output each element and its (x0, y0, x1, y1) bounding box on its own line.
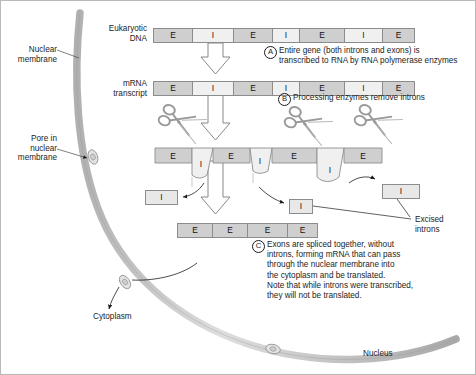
dna-segment-exon-0: E (153, 28, 193, 43)
step-letter-a: A (264, 46, 277, 59)
step-text-c: Exons are spliced together, without intr… (267, 240, 413, 301)
spliced-segment-exon-0: E (177, 223, 213, 238)
step-letter-c: C (252, 240, 265, 253)
dna-segment-intron-3: I (272, 28, 300, 43)
arrow-mrna-to-cytoplasm (109, 287, 119, 309)
dna-segment-intron-5: I (344, 28, 383, 43)
svg-text:E: E (291, 151, 297, 161)
svg-text:E: E (170, 151, 176, 161)
dna-segment-exon-2: E (233, 28, 273, 43)
sequence-bar-eukaryotic-dna: EIEIEIE (153, 28, 415, 43)
scissors-icon-left (155, 103, 207, 144)
dna-segment-intron-1: I (192, 28, 234, 43)
scissors-icon-middle (281, 105, 333, 146)
sequence-bar-spliced-mrna: EEEE (177, 223, 318, 238)
arrow-transcription (201, 43, 230, 74)
svg-text:E: E (360, 151, 366, 161)
step-text-b: Processing enzymes remove introns (293, 93, 425, 103)
transcript-segment-intron-1: I (192, 81, 234, 96)
excised-intron-box-3: I (382, 184, 420, 199)
svg-text:E: E (228, 151, 234, 161)
label-nucleus: Nucleus (363, 349, 393, 359)
transcript-segment-exon-0: E (153, 81, 193, 96)
dna-segment-exon-4: E (299, 28, 345, 43)
label-excised-introns: Excised introns (415, 215, 444, 234)
excised-intron-box-1: I (145, 190, 178, 205)
scissors-icon-right (351, 103, 403, 144)
dna-segment-exon-6: E (382, 28, 415, 43)
arrow-to-excised-intron-3 (349, 177, 375, 183)
label-mrna-transcript: mRNA transcript (97, 79, 147, 98)
arrow-to-excised-intron-2 (259, 187, 284, 203)
step-letter-b: B (278, 93, 291, 106)
excised-intron-box-2: I (289, 199, 313, 214)
label-nuclear-membrane: Nuclear membrane (5, 45, 57, 64)
svg-text:I: I (200, 159, 202, 169)
leader-excised-3 (397, 199, 410, 217)
spliced-segment-exon-1: E (212, 223, 248, 238)
svg-text:I: I (329, 165, 331, 175)
looped-transcript: I I I E E E E (155, 148, 382, 187)
nuclear-pore-middle (117, 273, 133, 290)
step-text-a: Entire gene (both introns and exons) is … (279, 46, 457, 66)
spliced-segment-exon-2: E (247, 223, 288, 238)
spliced-segment-exon-3: E (287, 223, 318, 238)
arrow-to-excised-intron-1 (183, 183, 204, 197)
splicing-diagram: I I I E E E E (0, 0, 476, 375)
transcript-segment-exon-2: E (233, 81, 273, 96)
label-eukaryotic-dna: Eukaryotic DNA (97, 24, 147, 43)
label-nuclear-pore: Pore in nuclear membrane (5, 134, 57, 163)
leader-excised-2 (313, 206, 411, 219)
label-cytoplasm: Cytoplasm (93, 312, 132, 322)
svg-text:I: I (259, 156, 261, 166)
arrow-processing-upper (201, 89, 230, 140)
